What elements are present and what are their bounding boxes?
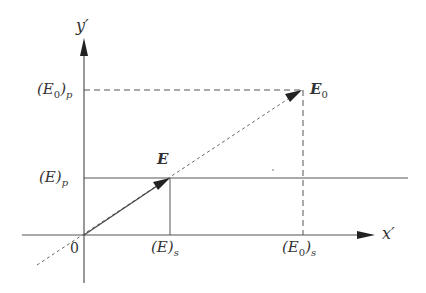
origin-label: 0 (70, 241, 79, 255)
E-vector-label: E (157, 152, 168, 167)
E0-arrowhead-icon (285, 90, 302, 102)
E-p-label-base: (E) (39, 168, 62, 186)
E0-s-label-base: (E (282, 238, 299, 256)
E0-s-label: (E0)s (282, 240, 316, 258)
E-vector (84, 184, 160, 235)
E0-vector-label-sub: 0 (321, 89, 327, 100)
E-s-label-base: (E) (151, 238, 174, 256)
E-s-label-sub: s (174, 247, 179, 258)
x-axis-arrow-icon (357, 231, 375, 239)
E0-p-label-sub: p (66, 89, 72, 100)
E-s-label: (E)s (151, 240, 179, 258)
E0-vector-label: E0 (310, 82, 328, 100)
stray-dot (272, 169, 274, 171)
diagram-canvas: y′ x′ 0 (E0)p (E)p (E)s (E0)s E E0 (0, 0, 426, 293)
E0-p-label-base: (E (37, 80, 54, 98)
diagram-svg (0, 0, 426, 293)
E0-s-label-sub: s (311, 247, 316, 258)
y-axis-arrow-icon (80, 38, 88, 56)
E-p-label-sub: p (62, 177, 68, 188)
E0-vector-label-base: E (310, 80, 321, 98)
E-p-label: (E)p (39, 170, 68, 188)
E-arrowhead-icon (153, 178, 170, 190)
E0-p-label: (E0)p (37, 82, 72, 100)
y-axis-label: y′ (76, 18, 89, 34)
x-axis-label: x′ (382, 226, 395, 242)
